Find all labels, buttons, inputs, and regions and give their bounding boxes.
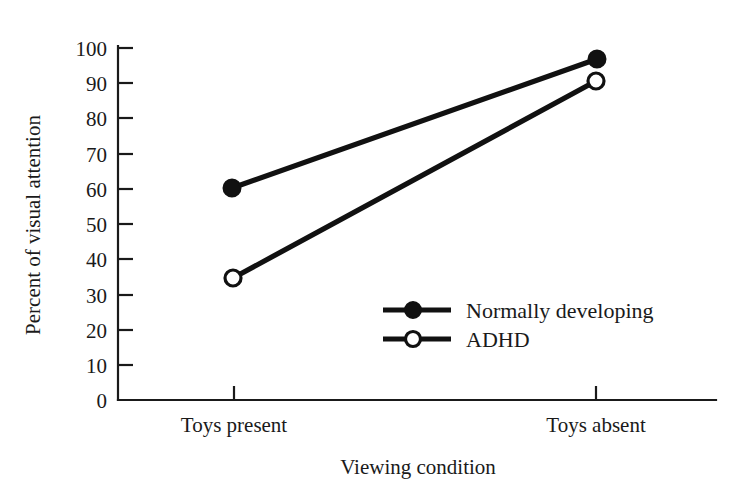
x-tick-label-toys-present: Toys present	[181, 413, 288, 437]
y-tick-label: 40	[86, 248, 107, 272]
y-tick-label: 50	[86, 213, 107, 237]
y-tick-label: 10	[86, 354, 107, 378]
y-tick-label: 60	[86, 178, 107, 202]
y-tick-label: 80	[86, 107, 107, 131]
data-point-adhd-toys-absent	[588, 73, 604, 89]
y-tick-label: 100	[76, 37, 108, 61]
x-axis-title: Viewing condition	[340, 455, 496, 479]
legend-label-adhd: ADHD	[466, 327, 530, 352]
y-tick-label: 0	[97, 389, 108, 413]
y-axis-title: Percent of visual attention	[21, 115, 45, 335]
filled-circle-icon	[405, 302, 421, 318]
y-tick-label: 70	[86, 143, 107, 167]
y-tick-label: 20	[86, 319, 107, 343]
y-tick-label: 90	[86, 72, 107, 96]
figure-container: 100 90 80 70 60 50 40 30 20 10 0 Toys pr…	[0, 0, 752, 495]
data-point-normally-developing-toys-present	[224, 180, 241, 197]
y-tick-label: 30	[86, 284, 107, 308]
legend-label-normally-developing: Normally developing	[466, 298, 654, 323]
line-chart: 100 90 80 70 60 50 40 30 20 10 0 Toys pr…	[0, 0, 752, 495]
data-point-normally-developing-toys-absent	[589, 51, 606, 68]
x-tick-label-toys-absent: Toys absent	[546, 413, 646, 437]
data-point-adhd-toys-present	[225, 270, 241, 286]
open-circle-icon	[406, 332, 421, 347]
